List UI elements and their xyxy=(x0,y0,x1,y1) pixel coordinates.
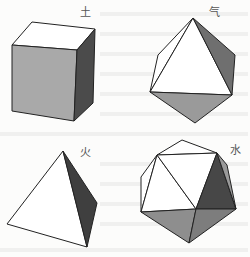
tetrahedron-element-label: 火 xyxy=(80,147,91,158)
icosahedron-face-top xyxy=(157,140,217,155)
tetrahedron-solid xyxy=(7,151,97,247)
icosahedron-solid xyxy=(141,140,236,243)
icosahedron-element-label: 水 xyxy=(230,145,241,156)
octahedron-solid xyxy=(150,18,235,123)
solids-figure xyxy=(0,0,250,257)
cube-element-label: 土 xyxy=(80,7,91,18)
cube-front-face xyxy=(12,45,77,121)
octahedron-element-label: 气 xyxy=(209,7,220,18)
icosahedron-face-bottom-right xyxy=(189,209,236,243)
octahedron-bottom-face xyxy=(150,92,232,123)
cube-solid xyxy=(12,22,95,121)
icosahedron-face-bottom-left xyxy=(141,209,196,243)
diagram-canvas: 土 气 火 水 xyxy=(0,0,250,257)
